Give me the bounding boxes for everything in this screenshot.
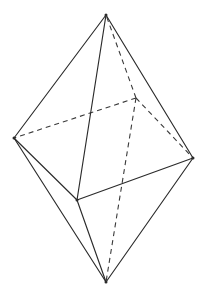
figure-canvas (0, 0, 203, 299)
solid-edge-left-to-bottom-apex (14, 138, 106, 282)
solid-edge-top-apex-to-front (77, 15, 106, 200)
dashed-edge-back-to-right (136, 98, 193, 158)
solid-edge-top-apex-to-right (106, 15, 193, 158)
dashed-edge-group (14, 15, 193, 282)
vertex-dot-front (76, 199, 79, 202)
solid-edge-left-to-front (14, 138, 77, 200)
dashed-edge-back-to-left (14, 98, 136, 138)
solid-edge-top-apex-to-left (14, 15, 106, 138)
vertex-dot-right (192, 157, 195, 160)
vertex-dot-top-apex (105, 14, 108, 17)
dashed-edge-back-to-bottom-apex (106, 98, 136, 282)
bipyramid-drawing (0, 0, 203, 299)
vertex-dot-group (13, 14, 195, 284)
vertex-dot-left (13, 137, 16, 140)
solid-edge-front-to-right (77, 158, 193, 200)
solid-edge-group (14, 15, 193, 282)
solid-edge-right-to-bottom-apex (106, 158, 193, 282)
vertex-dot-bottom-apex (105, 281, 108, 284)
solid-edge-front-to-bottom-apex (77, 200, 106, 282)
